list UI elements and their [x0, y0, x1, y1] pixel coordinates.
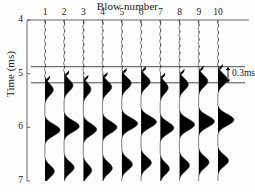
trace-3-positive-fill [83, 76, 91, 102]
first-break-marker-1 [46, 76, 50, 82]
trace-1-positive-fill [45, 116, 60, 143]
traces-layer [44, 20, 233, 181]
x-tick-label-3: 3 [74, 7, 92, 17]
x-tick-label-4: 4 [94, 7, 112, 17]
first-break-marker-7 [161, 72, 165, 78]
first-break-marker-2 [65, 70, 69, 76]
x-tick-label-7: 7 [151, 7, 169, 17]
first-break-marker-3 [84, 75, 88, 81]
x-tick-label-5: 5 [113, 7, 131, 17]
trace-4-positive-fill [103, 74, 112, 101]
axes-layer [27, 20, 249, 181]
reference-lines-layer [31, 67, 245, 83]
first-break-marker-5 [123, 68, 127, 74]
trace-1-wiggle [44, 20, 60, 181]
x-tick-label-2: 2 [55, 7, 73, 17]
x-tick-label-6: 6 [132, 7, 150, 17]
x-tick-label-8: 8 [171, 7, 189, 17]
trace-6-positive-fill [141, 149, 151, 176]
trace-2-positive-fill [64, 112, 79, 140]
trace-3-wiggle [83, 20, 97, 181]
trace-3-positive-fill [83, 116, 96, 143]
trace-1-positive-fill [45, 77, 53, 103]
trace-9-positive-fill [199, 149, 209, 176]
trace-4-positive-fill [103, 114, 117, 141]
y-tick-label-5: 5 [7, 68, 23, 78]
trace-8-positive-fill [180, 71, 189, 97]
trace-2-positive-fill [64, 72, 73, 99]
trace-5-positive-fill [122, 151, 132, 178]
trace-2-wiggle [64, 20, 80, 181]
y-tick-label-4: 4 [7, 14, 23, 24]
wiggle-trace-plot [0, 0, 255, 192]
trace-9-positive-fill [199, 68, 208, 94]
trace-7-positive-fill [160, 114, 174, 142]
trace-4-positive-fill [103, 155, 113, 181]
trace-3-positive-fill [83, 157, 91, 181]
trace-4-wiggle [102, 20, 117, 181]
trace-7-positive-fill [160, 155, 169, 181]
trace-10-positive-fill [218, 106, 234, 134]
annotation-layer [226, 67, 230, 83]
first-break-marker-8 [181, 69, 185, 75]
trace-5-positive-fill [122, 110, 138, 138]
trace-8-positive-fill [180, 152, 190, 179]
waveform-figure: Blow number Time (ms) 12345678910 4567 0… [0, 0, 255, 192]
trace-7-wiggle [160, 20, 174, 181]
y-tick-label-7: 7 [7, 175, 23, 185]
scale-annotation-label: 0.3ms [232, 68, 255, 78]
trace-2-positive-fill [64, 154, 74, 181]
first-break-marker-4 [104, 72, 108, 78]
trace-5-positive-fill [122, 70, 131, 97]
trace-9-positive-fill [199, 108, 215, 136]
x-tick-label-9: 9 [190, 7, 208, 17]
trace-6-positive-fill [141, 68, 150, 95]
scale-arrow-head-top [226, 67, 230, 70]
x-tick-label-1: 1 [36, 7, 54, 17]
trace-6-positive-fill [141, 108, 156, 135]
trace-7-positive-fill [160, 74, 168, 100]
trace-10-positive-fill [218, 147, 228, 174]
x-tick-label-10: 10 [209, 7, 227, 17]
y-tick-label-6: 6 [7, 121, 23, 131]
trace-8-positive-fill [180, 111, 195, 139]
